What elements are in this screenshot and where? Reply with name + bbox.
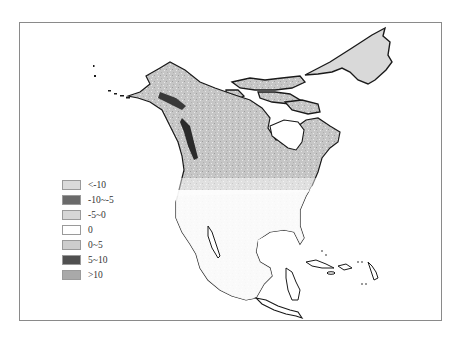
legend-label: -5~0 (88, 210, 106, 220)
caribbean-islands (306, 260, 378, 280)
legend-swatch (62, 180, 81, 190)
legend-label: 5~10 (88, 255, 107, 265)
greenland (305, 28, 392, 84)
legend-item: 5~10 (62, 252, 114, 267)
legend-item: 0 (62, 222, 114, 237)
legend-swatch (62, 270, 81, 280)
legend-swatch (62, 210, 81, 220)
legend-swatch (62, 195, 81, 205)
legend-item: >10 (62, 267, 114, 282)
legend-label: 0~5 (88, 240, 103, 250)
legend-item: -10~-5 (62, 192, 114, 207)
legend-item: -5~0 (62, 207, 114, 222)
legend-swatch (62, 240, 81, 250)
legend-item: <-10 (62, 177, 114, 192)
legend-label: 0 (88, 225, 93, 235)
legend-swatch (62, 255, 81, 265)
legend: <-10 -10~-5 -5~0 0 0~5 5~10 >10 (62, 177, 114, 282)
north-america-map (0, 0, 457, 340)
aleutian-islands (93, 65, 130, 99)
legend-label: >10 (88, 270, 103, 280)
central-america (256, 298, 302, 318)
legend-label: <-10 (88, 180, 106, 190)
legend-label: -10~-5 (88, 195, 114, 205)
legend-swatch (62, 225, 81, 235)
legend-item: 0~5 (62, 237, 114, 252)
